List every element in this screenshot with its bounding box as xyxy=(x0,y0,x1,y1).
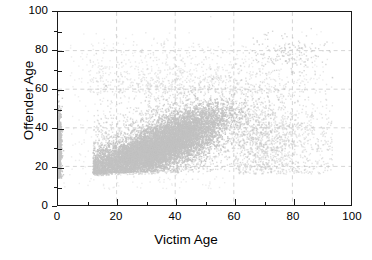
tick-mark xyxy=(54,148,57,149)
tick-mark xyxy=(52,11,57,12)
x-tick-label: 80 xyxy=(273,210,313,222)
tick-mark xyxy=(52,50,57,51)
tick-mark xyxy=(294,199,295,205)
tick-mark xyxy=(147,202,148,206)
y-axis-title: Offender Age xyxy=(21,21,36,181)
tick-mark xyxy=(54,31,57,32)
tick-mark xyxy=(58,51,64,52)
tick-mark xyxy=(58,110,62,111)
x-tick-label: 20 xyxy=(96,210,136,222)
data-points-layer xyxy=(58,12,351,205)
tick-mark xyxy=(52,128,57,129)
x-tick-label: 0 xyxy=(37,210,77,222)
y-tick-label: 0 xyxy=(14,199,48,211)
tick-mark xyxy=(54,187,57,188)
scatter-plot-figure: 020406080100 020406080100 Victim Age Off… xyxy=(0,0,372,260)
tick-mark xyxy=(206,202,207,206)
plot-area xyxy=(57,11,352,206)
tick-mark xyxy=(58,129,64,130)
tick-mark xyxy=(88,202,89,206)
x-tick-label: 100 xyxy=(332,210,372,222)
tick-mark xyxy=(324,202,325,206)
tick-mark xyxy=(117,199,118,205)
tick-mark xyxy=(52,206,57,207)
tick-mark xyxy=(58,149,62,150)
tick-mark xyxy=(52,167,57,168)
x-tick-label: 60 xyxy=(214,210,254,222)
tick-mark xyxy=(58,32,62,33)
tick-mark xyxy=(52,89,57,90)
tick-mark xyxy=(58,90,64,91)
tick-mark xyxy=(54,70,57,71)
tick-mark xyxy=(58,188,62,189)
x-axis-title: Victim Age xyxy=(0,232,372,247)
x-tick-label: 40 xyxy=(155,210,195,222)
tick-mark xyxy=(235,199,236,205)
tick-mark xyxy=(58,168,64,169)
y-tick-label: 100 xyxy=(14,4,48,16)
tick-mark xyxy=(176,199,177,205)
tick-mark xyxy=(265,202,266,206)
tick-mark xyxy=(58,71,62,72)
tick-mark xyxy=(54,109,57,110)
